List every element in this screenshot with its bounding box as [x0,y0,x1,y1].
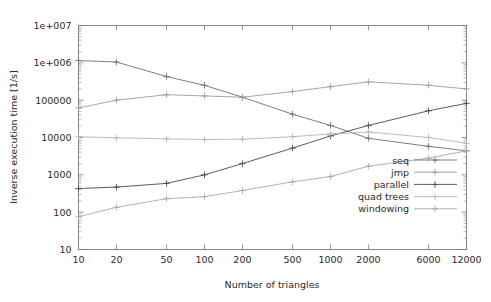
data-point-marker [425,134,431,140]
x-tick-label: 200 [233,254,251,265]
data-point-marker [365,79,371,85]
data-point-marker [327,173,333,179]
chart-container: 10205010020050010002000600012000 1010010… [0,0,491,302]
data-point-marker [327,83,333,89]
x-axis-tick-labels: 10205010020050010002000600012000 [72,254,481,265]
data-point-marker [432,181,438,187]
log-log-line-chart: 10205010020050010002000600012000 1010010… [0,0,491,302]
series-windowing [75,148,469,220]
data-point-marker [163,180,169,186]
data-point-marker [289,111,295,117]
data-point-marker [239,187,245,193]
data-point-marker [289,88,295,94]
data-point-marker [201,193,207,199]
legend-label-jmp: jmp [390,167,409,178]
y-tick-label: 100000 [35,95,71,106]
data-point-marker [201,82,207,88]
legend-label-windowing: windowing [358,203,409,214]
data-point-marker [201,136,207,142]
y-axis-tick-labels: 101001000100001000001e+0061e+007 [34,20,72,255]
data-point-marker [75,214,81,220]
x-axis-title: Number of triangles [225,279,320,290]
x-tick-label: 100 [195,254,213,265]
x-tick-label: 1000 [318,254,342,265]
data-point-marker [289,145,295,151]
data-point-marker [113,97,119,103]
data-point-marker [163,92,169,98]
legend-label-parallel: parallel [374,179,409,190]
legend-label-quad-trees: quad trees [358,191,409,202]
series-jmp [75,79,469,111]
data-point-marker [113,135,119,141]
chart-legend: seqjmpparallelquad treeswindowing [358,155,457,215]
data-point-marker [113,184,119,190]
data-point-marker [289,179,295,185]
data-point-marker [432,206,438,212]
data-point-marker [239,136,245,142]
series-parallel [75,100,469,192]
y-tick-label: 1e+007 [34,20,72,31]
series-line [79,132,467,143]
legend-label-seq: seq [392,155,409,166]
data-point-marker [425,143,431,149]
data-point-marker [239,94,245,100]
series-line [79,82,467,108]
data-point-marker [113,59,119,65]
data-point-marker [201,93,207,99]
data-point-marker [365,122,371,128]
data-point-marker [163,73,169,79]
x-tick-label: 50 [161,254,173,265]
x-tick-label: 2000 [356,254,380,265]
data-point-marker [201,172,207,178]
y-tick-label: 1000 [47,169,71,180]
series-seq [75,57,469,154]
data-point-marker [425,82,431,88]
y-tick-label: 100 [53,207,71,218]
data-point-marker [432,169,438,175]
y-tick-label: 1e+006 [34,57,72,68]
data-point-marker [113,204,119,210]
x-tick-label: 6000 [416,254,440,265]
data-point-marker [239,160,245,166]
data-point-marker [463,86,469,92]
series-layer [75,57,469,220]
data-point-marker [432,193,438,199]
data-point-marker [163,195,169,201]
data-point-marker [365,135,371,141]
data-point-marker [289,134,295,140]
x-tick-label: 500 [284,254,302,265]
data-point-marker [327,122,333,128]
y-tick-label: 10 [59,244,71,255]
y-axis-title: Inverse execution time [1/s] [8,70,19,203]
x-tick-label: 12000 [451,254,481,265]
data-point-marker [365,163,371,169]
x-tick-label: 20 [110,254,122,265]
data-point-marker [163,136,169,142]
data-point-marker [425,108,431,114]
data-point-marker [365,129,371,135]
y-tick-label: 10000 [41,132,71,143]
x-tick-label: 10 [72,254,84,265]
